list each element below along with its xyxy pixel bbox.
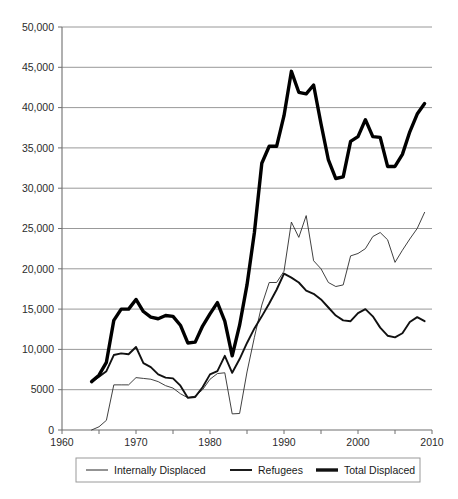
y-tick-label: 0 — [48, 424, 54, 436]
series-paths-group — [92, 71, 425, 430]
x-tick-marks-group — [62, 430, 432, 434]
line-chart: 0500010,00015,00020,00025,00030,00035,00… — [0, 0, 458, 499]
figure-container: 0500010,00015,00020,00025,00030,00035,00… — [0, 0, 458, 499]
y-tick-label: 45,000 — [22, 61, 54, 73]
y-tick-label: 15,000 — [22, 303, 54, 315]
x-tick-label: 1960 — [50, 436, 74, 448]
gridlines-group — [62, 27, 432, 390]
series-line-total-displaced — [92, 71, 425, 381]
y-tick-label: 35,000 — [22, 142, 54, 154]
y-tick-label: 40,000 — [22, 101, 54, 113]
x-tick-label: 1980 — [198, 436, 222, 448]
y-tick-labels-group: 0500010,00015,00020,00025,00030,00035,00… — [22, 21, 54, 436]
y-tick-marks-group — [58, 27, 62, 430]
legend-entries-group: Internally DisplacedRefugeesTotal Displa… — [86, 464, 415, 476]
y-tick-label: 25,000 — [22, 222, 54, 234]
legend-label: Internally Displaced — [114, 464, 206, 476]
x-tick-label: 1970 — [124, 436, 148, 448]
y-tick-label: 30,000 — [22, 182, 54, 194]
x-tick-label: 2000 — [346, 436, 370, 448]
y-tick-label: 20,000 — [22, 263, 54, 275]
y-tick-label: 10,000 — [22, 343, 54, 355]
legend-label: Refugees — [258, 464, 303, 476]
chart-legend: Internally DisplacedRefugeesTotal Displa… — [76, 458, 420, 482]
x-tick-labels-group: 196019701980199020002010 — [50, 436, 444, 448]
x-tick-label: 1990 — [272, 436, 296, 448]
legend-label: Total Displaced — [344, 464, 415, 476]
y-tick-label: 50,000 — [22, 21, 54, 33]
series-line-refugees — [92, 274, 425, 398]
x-tick-label: 2010 — [420, 436, 444, 448]
y-tick-label: 5000 — [31, 383, 55, 395]
